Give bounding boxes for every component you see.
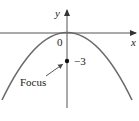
parabola-diagram: y x 0 −3 Focus bbox=[0, 0, 139, 121]
focus-point bbox=[65, 59, 69, 63]
focus-label: Focus bbox=[20, 76, 46, 88]
focus-pointer-arrow bbox=[46, 64, 63, 76]
x-axis-label: x bbox=[130, 36, 136, 48]
y-axis-label: y bbox=[54, 7, 60, 19]
focus-value-label: −3 bbox=[74, 55, 86, 67]
origin-label: 0 bbox=[57, 36, 63, 48]
